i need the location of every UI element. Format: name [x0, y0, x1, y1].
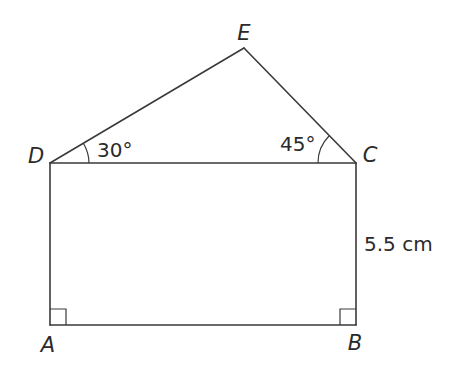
angle-arc-d [84, 144, 90, 164]
geometry-diagram: E D C A B 30° 45° 5.5 cm [0, 0, 451, 375]
side-de [50, 48, 244, 163]
right-angle-marker-a [50, 309, 66, 325]
vertex-label-a: A [39, 333, 55, 357]
right-angle-marker-b [340, 309, 356, 325]
length-label-bc: 5.5 cm [364, 232, 433, 256]
angle-label-d: 30° [97, 138, 132, 162]
angle-label-c: 45° [280, 132, 315, 156]
vertex-label-d: D [28, 144, 44, 168]
vertex-label-e: E [237, 21, 251, 45]
vertex-label-c: C [363, 143, 378, 167]
vertex-label-b: B [348, 331, 362, 355]
angle-arc-c [318, 136, 329, 163]
